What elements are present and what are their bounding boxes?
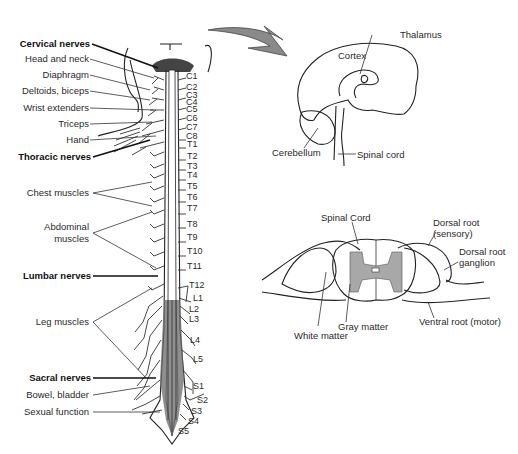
leader-cerebellum xyxy=(304,128,318,148)
label-wrist-extenders: Wrist extenders xyxy=(23,102,89,113)
label-white-matter: White matter xyxy=(294,330,348,341)
label-abdominal: Abdominal xyxy=(44,221,89,232)
segment-t9: T9 xyxy=(187,232,198,242)
brainstem-outline xyxy=(334,106,344,166)
corpus-callosum xyxy=(339,70,378,98)
label-cerebellum: Cerebellum xyxy=(272,147,321,158)
label-leg-muscles: Leg muscles xyxy=(36,316,90,327)
curved-arrow-icon xyxy=(208,26,287,56)
segment-s5: S5 xyxy=(178,426,189,436)
label-thalamus: Thalamus xyxy=(400,29,442,40)
spine-illustration: Cervical nerves Thoracic nerves Lumbar n… xyxy=(18,38,211,444)
segment-t4: T4 xyxy=(187,170,198,180)
central-canal xyxy=(372,268,379,272)
label-cervical-nerves: Cervical nerves xyxy=(20,38,90,49)
segment-l4: L4 xyxy=(190,335,200,345)
right-ventral-root-outline xyxy=(402,298,490,303)
brain-illustration: Cortex Thalamus Cerebellum Spinal cord xyxy=(272,29,442,166)
label-head-and-neck: Head and neck xyxy=(25,53,89,64)
label-lumbar-nerves: Lumbar nerves xyxy=(23,270,91,281)
leader-lines xyxy=(90,44,160,412)
label-spinal-cord: Spinal Cord xyxy=(321,212,371,223)
left-ventral-root-outline xyxy=(262,292,346,300)
label-dorsal-root-sensory: (sensory) xyxy=(433,228,473,239)
segment-t12: T12 xyxy=(189,280,205,290)
segment-l2: L2 xyxy=(189,304,199,314)
segment-s4: S4 xyxy=(188,416,199,426)
segment-t6: T6 xyxy=(187,192,198,202)
segment-t7: T7 xyxy=(187,203,198,213)
label-thoracic-nerves: Thoracic nerves xyxy=(18,151,91,162)
label-spinal-cord-brain: Spinal cord xyxy=(357,149,405,160)
segment-t8: T8 xyxy=(187,219,198,229)
segment-t2: T2 xyxy=(187,151,198,161)
label-dorsal-root-ganglion-1: Dorsal root xyxy=(459,246,506,257)
leader-gray-matter xyxy=(346,284,350,322)
label-abdominal-muscles: muscles xyxy=(54,233,89,244)
right-dorsal-root-outline xyxy=(398,243,451,282)
leader-white-matter xyxy=(318,272,326,326)
left-dorsal-root-outline xyxy=(262,241,360,280)
label-sacral-nerves: Sacral nerves xyxy=(29,372,91,383)
label-dorsal-root: Dorsal root xyxy=(433,217,480,228)
right-dorsal-root-line xyxy=(446,280,484,284)
segment-s1: S1 xyxy=(193,381,204,391)
label-bowel-bladder: Bowel, bladder xyxy=(26,389,89,400)
nerve-branches-left xyxy=(114,76,164,414)
segment-t1: T1 xyxy=(187,139,198,149)
cross-section-illustration: Spinal Cord Dorsal root (sensory) Dorsal… xyxy=(262,212,506,341)
thalamus-shape xyxy=(361,75,367,82)
jaw-outline xyxy=(160,44,182,50)
segment-c1: C1 xyxy=(186,71,198,81)
segment-t5: T5 xyxy=(187,181,198,191)
segment-t10: T10 xyxy=(187,246,203,256)
label-chest-muscles: Chest muscles xyxy=(27,187,90,198)
left-ganglion-outline xyxy=(282,248,336,293)
neck-outline-right xyxy=(205,45,211,72)
label-triceps: Triceps xyxy=(58,118,89,129)
leader-cervical xyxy=(92,44,158,68)
segment-l1: L1 xyxy=(193,293,203,303)
label-hand: Hand xyxy=(66,134,89,145)
figure-canvas: Cervical nerves Thoracic nerves Lumbar n… xyxy=(0,0,518,454)
label-ventral-root: Ventral root (motor) xyxy=(419,316,501,327)
label-deltoids-biceps: Deltoids, biceps xyxy=(22,85,89,96)
label-diaphragm: Diaphragm xyxy=(43,69,90,80)
label-dorsal-root-ganglion-2: ganglion xyxy=(459,257,495,268)
cerebellum-outline xyxy=(300,111,335,145)
segment-s3: S3 xyxy=(191,406,202,416)
segment-s2: S2 xyxy=(197,395,208,405)
label-sexual-function: Sexual function xyxy=(24,406,89,417)
label-cortex: Cortex xyxy=(338,50,366,61)
right-ganglion-outline xyxy=(404,248,440,293)
segment-t11: T11 xyxy=(187,261,202,271)
segment-l5: L5 xyxy=(193,354,203,364)
segment-l3: L3 xyxy=(189,314,199,324)
